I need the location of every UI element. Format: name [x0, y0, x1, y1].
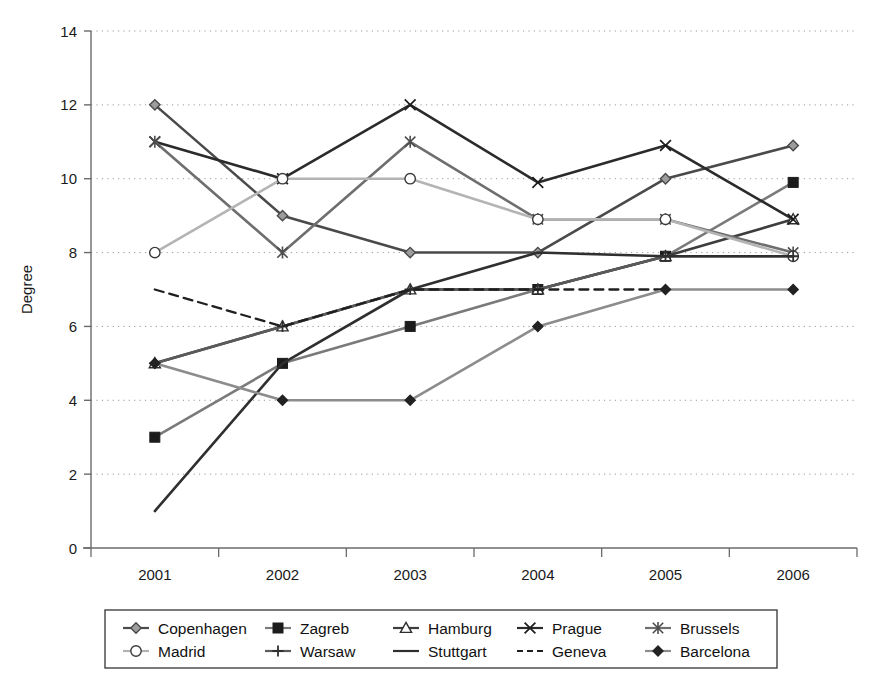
legend-label: Hamburg	[428, 620, 492, 637]
chart-legend: CopenhagenZagrebHamburgPragueBrusselsMad…	[105, 610, 777, 668]
series-warsaw	[149, 251, 799, 369]
y-axis-label: Degree	[18, 265, 35, 314]
legend-label: Warsaw	[300, 643, 356, 660]
data-point	[150, 432, 160, 442]
series-prague	[149, 99, 798, 224]
chart-page: 02468101214 200120022003200420052006 Deg…	[0, 0, 882, 695]
data-point	[788, 285, 798, 295]
series-line	[155, 105, 793, 219]
series-barcelona	[150, 285, 798, 406]
series-line	[155, 219, 793, 363]
x-tick-label: 2002	[266, 566, 299, 583]
data-point	[405, 99, 416, 110]
x-tick-label: 2003	[393, 566, 426, 583]
series-line	[155, 290, 793, 401]
data-point	[278, 395, 288, 405]
data-series	[149, 99, 799, 511]
y-axis-ticks: 02468101214	[60, 23, 91, 557]
series-line	[155, 179, 793, 257]
x-axis-ticks: 200120022003200420052006	[91, 548, 857, 583]
series-brussels	[150, 136, 799, 259]
data-point	[660, 214, 670, 224]
y-tick-label: 2	[69, 466, 77, 483]
legend-label: Prague	[552, 620, 602, 637]
y-tick-label: 6	[69, 318, 77, 335]
x-tick-label: 2006	[776, 566, 809, 583]
data-point	[533, 214, 543, 224]
y-tick-label: 14	[60, 23, 77, 40]
data-point	[788, 140, 798, 150]
legend-marker-icon	[131, 646, 141, 656]
y-tick-label: 10	[60, 170, 77, 187]
y-tick-label: 8	[69, 244, 77, 261]
data-point	[660, 174, 670, 184]
legend-label: Zagreb	[300, 620, 349, 637]
legend-label: Brussels	[680, 620, 740, 637]
data-point	[150, 247, 160, 257]
data-point	[277, 174, 287, 184]
legend-label: Geneva	[552, 643, 607, 660]
data-point	[405, 321, 415, 331]
x-tick-label: 2004	[521, 566, 554, 583]
series-line	[155, 105, 793, 253]
data-point	[405, 174, 415, 184]
y-tick-label: 12	[60, 96, 77, 113]
legend-label: Stuttgart	[428, 643, 487, 660]
x-tick-label: 2001	[138, 566, 171, 583]
x-tick-label: 2005	[649, 566, 682, 583]
legend-label: Copenhagen	[158, 620, 247, 637]
line-chart: 02468101214 200120022003200420052006 Deg…	[0, 0, 882, 695]
series-madrid	[150, 174, 799, 262]
y-tick-label: 4	[69, 392, 77, 409]
legend-label: Barcelona	[680, 643, 750, 660]
legend-label: Madrid	[158, 643, 205, 660]
series-copenhagen	[150, 100, 799, 258]
data-point	[788, 177, 798, 187]
y-tick-label: 0	[69, 540, 77, 557]
data-point	[405, 136, 415, 148]
data-point	[661, 285, 671, 295]
data-point	[405, 247, 415, 257]
legend-marker-icon	[273, 623, 283, 633]
